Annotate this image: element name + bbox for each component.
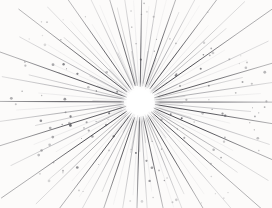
sunburst-canvas <box>0 0 272 208</box>
edge-vignette <box>0 0 272 208</box>
sunburst-illustration <box>0 0 272 208</box>
